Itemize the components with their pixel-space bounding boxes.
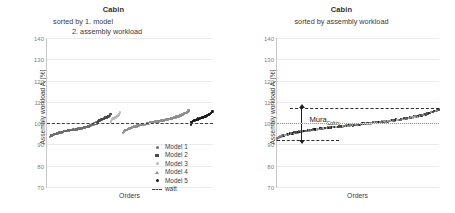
y-axis-tick-label: 100 [34, 121, 44, 127]
y-axis-tick-label: 110 [264, 100, 274, 106]
legend-item-label: Model 1 [165, 143, 188, 151]
gridline: 140 [277, 38, 439, 39]
legend-item[interactable]: Model 5 [152, 177, 188, 185]
gridline: 90 [47, 144, 213, 145]
y-axis-tick-label: 140 [34, 36, 44, 42]
mura-annotation-label: MuraCabin [309, 115, 339, 126]
page-title-right: Cabin [228, 5, 455, 14]
gridline: 80 [277, 166, 439, 167]
plot-area-right: MuraCabin 708090100110120130140 [276, 38, 439, 188]
chart-subtitle-left-line1: sorted by 1. model [53, 17, 113, 26]
legend-dot-icon [152, 179, 162, 182]
y-axis-tick-label: 130 [34, 57, 44, 63]
page-title-left: Cabin [0, 5, 227, 14]
figure-root: Cabin sorted by 1. model 2. assembly wor… [0, 0, 455, 213]
y-axis-tick-label: 80 [37, 164, 44, 170]
y-axis-label-text: Assembly workload A [39, 81, 46, 144]
gridline: 120 [47, 81, 213, 82]
legend-item[interactable]: Model 4 [152, 168, 188, 176]
gridline: 90 [277, 144, 439, 145]
legend-dot-icon [152, 162, 162, 165]
y-axis-tick-label: 120 [264, 79, 274, 85]
legend-marker-shape [156, 146, 159, 149]
data-point [119, 111, 121, 113]
data-series-group-left [47, 38, 213, 187]
chart-subtitle-left-line2: 2. assembly workload [72, 27, 142, 36]
legend-item-label: Model 5 [165, 177, 188, 185]
legend-marker-shape [155, 154, 158, 157]
legend-marker-shape [155, 171, 159, 174]
mura-upper-bound-line [290, 108, 439, 109]
data-point [110, 113, 112, 115]
legend-item-label: Model 2 [165, 151, 188, 159]
gridline: 70 [277, 187, 439, 188]
y-axis-tick-label: 70 [267, 185, 274, 191]
legend-triangle-icon [152, 171, 162, 174]
data-point [212, 110, 214, 112]
legend-item-label: watt [165, 185, 177, 193]
legend-item-label: Model 3 [165, 160, 188, 168]
y-axis-tick-label: 140 [264, 36, 274, 42]
y-axis-label-text: Assembly workload A [269, 81, 276, 144]
legend-left: Model 1Model 2Model 3Model 4Model 5watt [152, 143, 188, 193]
data-point [188, 109, 190, 111]
legend-square-icon [152, 154, 162, 157]
y-axis-tick-label: 80 [267, 164, 274, 170]
gridline: 140 [47, 38, 213, 39]
chart-subtitle-right: sorted by assembly workload [228, 17, 455, 26]
y-axis-tick-label: 90 [37, 142, 44, 148]
y-axis-tick-label: 70 [37, 185, 44, 191]
legend-item[interactable]: Model 3 [152, 160, 188, 168]
mura-range-arrow [301, 108, 302, 140]
y-axis-tick-label: 120 [34, 79, 44, 85]
legend-marker-shape [156, 179, 159, 182]
x-axis-label-left: Orders [46, 192, 213, 199]
legend-dot-icon [152, 146, 162, 149]
gridline: 70 [47, 187, 213, 188]
gridline: 130 [277, 59, 439, 60]
gridline: 120 [277, 81, 439, 82]
legend-marker-shape [152, 189, 162, 190]
watt-reference-line [47, 123, 213, 124]
gridline: 110 [47, 102, 213, 103]
legend-item[interactable]: watt [152, 185, 188, 193]
y-axis-tick-label: 90 [267, 142, 274, 148]
legend-item-label: Model 4 [165, 168, 188, 176]
gridline: 80 [47, 166, 213, 167]
legend-marker-shape [156, 162, 159, 165]
watt-reference-line [277, 123, 439, 124]
legend-item[interactable]: Model 1 [152, 143, 188, 151]
chart-panel-left: Cabin sorted by 1. model 2. assembly wor… [0, 0, 227, 213]
legend-line-icon [152, 189, 162, 190]
gridline: 110 [277, 102, 439, 103]
chart-panel-right: Cabin sorted by assembly workload Assemb… [228, 0, 455, 213]
gridline: 130 [47, 59, 213, 60]
y-axis-tick-label: 110 [34, 100, 44, 106]
y-axis-tick-label: 130 [264, 57, 274, 63]
mura-lower-bound-line [277, 140, 339, 141]
legend-item[interactable]: Model 2 [152, 151, 188, 159]
x-axis-label-right: Orders [276, 192, 439, 199]
y-axis-tick-label: 100 [264, 121, 274, 127]
